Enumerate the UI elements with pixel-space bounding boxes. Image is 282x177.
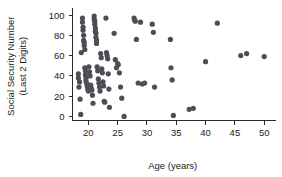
x-tick-label: 35 bbox=[171, 127, 182, 138]
x-tick-label: 25 bbox=[112, 127, 123, 138]
data-point bbox=[168, 65, 173, 70]
y-tick-label: 80 bbox=[54, 30, 65, 41]
data-point bbox=[142, 80, 147, 85]
data-point bbox=[80, 20, 85, 25]
data-point bbox=[244, 51, 249, 56]
data-point bbox=[203, 59, 208, 64]
data-point bbox=[106, 86, 111, 91]
data-point bbox=[138, 20, 143, 25]
data-point bbox=[112, 31, 117, 36]
x-tick-label: 50 bbox=[259, 127, 270, 138]
data-point bbox=[171, 113, 176, 118]
data-point bbox=[103, 15, 108, 20]
data-point bbox=[168, 37, 173, 42]
data-point bbox=[86, 64, 91, 69]
data-point bbox=[90, 93, 95, 98]
data-point bbox=[106, 71, 111, 76]
data-point bbox=[150, 22, 155, 27]
data-point bbox=[191, 106, 196, 111]
data-point bbox=[101, 83, 106, 88]
data-point bbox=[78, 97, 83, 102]
data-point bbox=[105, 56, 110, 61]
data-point bbox=[82, 47, 87, 52]
y-tick-label: 60 bbox=[54, 50, 65, 61]
y-tick-label: 100 bbox=[49, 10, 65, 21]
axis-labels-layer: 20253035404550020406080100Age (years)Soc… bbox=[5, 10, 269, 171]
data-points-layer bbox=[76, 13, 267, 119]
plot-canvas: 20253035404550020406080100Age (years)Soc… bbox=[0, 0, 282, 177]
data-point bbox=[134, 37, 139, 42]
data-point bbox=[215, 21, 220, 26]
data-point bbox=[90, 101, 95, 106]
y-axis-title-line1: Social Security Number bbox=[5, 17, 16, 116]
data-point bbox=[80, 28, 85, 33]
x-tick-label: 20 bbox=[83, 127, 94, 138]
data-point bbox=[78, 112, 83, 117]
data-point bbox=[94, 41, 99, 46]
x-axis-title: Age (years) bbox=[148, 160, 197, 171]
data-point bbox=[99, 55, 104, 60]
y-tick-label: 20 bbox=[54, 91, 65, 102]
y-axis-title-line2: (Last 2 Digits) bbox=[17, 37, 28, 96]
data-point bbox=[121, 114, 126, 119]
x-tick-label: 45 bbox=[230, 127, 241, 138]
data-point bbox=[77, 79, 82, 84]
data-point bbox=[100, 70, 105, 75]
data-point bbox=[118, 84, 123, 89]
data-point bbox=[87, 73, 92, 78]
data-point bbox=[81, 33, 86, 38]
data-point bbox=[152, 84, 157, 89]
y-tick-label: 40 bbox=[54, 70, 65, 81]
data-point bbox=[116, 62, 121, 67]
data-point bbox=[97, 88, 102, 93]
data-point bbox=[76, 84, 81, 89]
data-point bbox=[133, 19, 138, 24]
data-point bbox=[262, 54, 267, 59]
data-point bbox=[89, 87, 94, 92]
scatter-plot-figure: 20253035404550020406080100Age (years)Soc… bbox=[0, 0, 282, 177]
x-tick-label: 30 bbox=[142, 127, 153, 138]
data-point bbox=[151, 30, 156, 35]
data-point bbox=[119, 96, 124, 101]
data-point bbox=[238, 53, 243, 58]
data-point bbox=[117, 70, 122, 75]
data-point bbox=[107, 105, 112, 110]
y-tick-label: 0 bbox=[59, 111, 64, 122]
data-point bbox=[102, 100, 107, 105]
x-tick-label: 40 bbox=[200, 127, 211, 138]
data-point bbox=[170, 77, 175, 82]
